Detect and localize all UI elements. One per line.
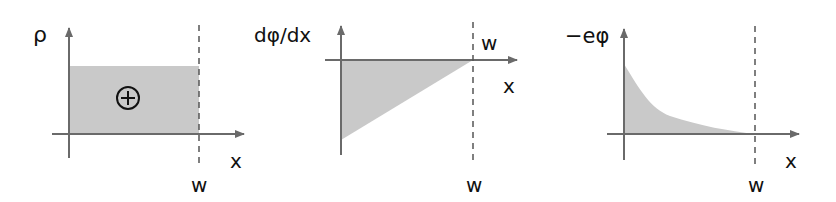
boundary-label-top: w bbox=[481, 31, 497, 55]
charge-region bbox=[69, 66, 199, 134]
y-axis-label: dφ/dx bbox=[254, 23, 311, 47]
depletion-diagram: ρ x w dφ/dx x w w −eφ x w bbox=[0, 0, 836, 202]
panel-charge-density: ρ x w bbox=[33, 22, 244, 197]
x-axis-label: x bbox=[230, 149, 242, 173]
boundary-label-bottom: w bbox=[466, 173, 482, 197]
y-axis-label: −eφ bbox=[565, 24, 609, 48]
panel-potential-energy: −eφ x w bbox=[565, 24, 799, 197]
field-region bbox=[341, 60, 473, 140]
y-axis-label: ρ bbox=[33, 22, 47, 47]
boundary-label: w bbox=[191, 173, 207, 197]
panel-field: dφ/dx x w w bbox=[254, 22, 517, 197]
potential-region bbox=[624, 64, 754, 134]
x-axis-label: x bbox=[785, 149, 797, 173]
x-axis-label: x bbox=[503, 74, 515, 98]
boundary-label: w bbox=[748, 173, 764, 197]
